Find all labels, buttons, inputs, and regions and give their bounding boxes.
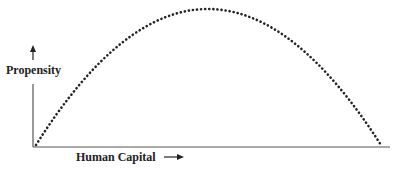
x-axis-label: Human Capital bbox=[76, 150, 156, 165]
y-arrow-icon bbox=[30, 45, 36, 60]
chart-canvas bbox=[0, 0, 398, 172]
propensity-curve bbox=[36, 9, 381, 145]
y-axis-label: Propensity bbox=[6, 63, 61, 78]
x-arrow-icon bbox=[164, 154, 184, 160]
